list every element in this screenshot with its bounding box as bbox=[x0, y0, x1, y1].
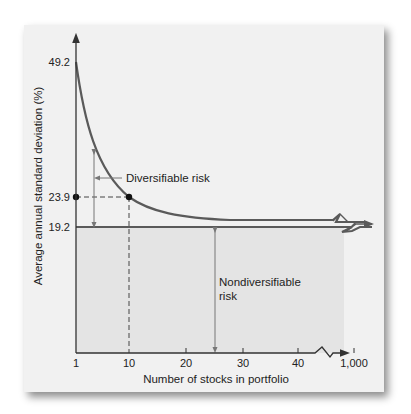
x-tick-1000: 1,000 bbox=[340, 357, 368, 369]
x-tick-20: 20 bbox=[180, 357, 192, 369]
x-tick-10: 10 bbox=[123, 357, 135, 369]
x-tick-40: 40 bbox=[292, 357, 304, 369]
nondiversifiable-risk-label-2: risk bbox=[219, 290, 237, 302]
portfolio-risk-curve bbox=[76, 62, 365, 222]
x-tick-30: 30 bbox=[237, 357, 249, 369]
risk-diversification-chart: Diversifiable risk Nondiversifiable risk… bbox=[0, 0, 411, 414]
y-tick-49-2: 49.2 bbox=[49, 56, 70, 68]
x-axis-title: Number of stocks in portfolio bbox=[143, 373, 289, 385]
nondiversifiable-region bbox=[76, 227, 344, 353]
y-axis-title: Average annual standard deviation (%) bbox=[32, 87, 44, 286]
y-tick-23-9: 23.9 bbox=[49, 191, 70, 203]
nondiversifiable-risk-label: Nondiversifiable bbox=[219, 276, 301, 288]
point-10-stocks bbox=[126, 194, 132, 200]
diversifiable-risk-label: Diversifiable risk bbox=[126, 172, 210, 184]
y-tick-19-2: 19.2 bbox=[49, 221, 70, 233]
x-tick-1: 1 bbox=[73, 357, 79, 369]
